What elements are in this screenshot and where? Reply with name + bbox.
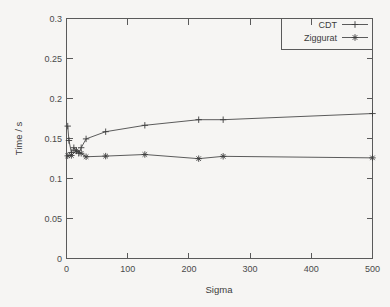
x-tick-label: 400 bbox=[304, 264, 319, 274]
y-tick-label: 0.15 bbox=[44, 134, 62, 144]
data-point-marker bbox=[142, 151, 148, 157]
data-point-marker bbox=[102, 129, 108, 135]
legend-marker-star-ziggurat bbox=[352, 34, 359, 41]
data-point-marker bbox=[369, 110, 375, 116]
data-point-marker bbox=[83, 136, 89, 142]
data-point-marker bbox=[78, 145, 84, 151]
y-tick-label: 0.05 bbox=[44, 214, 62, 224]
data-point-marker bbox=[65, 123, 71, 129]
data-point-marker bbox=[195, 155, 201, 161]
chart-legend: CDT Ziggurat bbox=[282, 19, 373, 50]
x-tick-label: 300 bbox=[243, 264, 258, 274]
x-tick-label: 500 bbox=[365, 264, 380, 274]
x-tickmarks bbox=[67, 19, 373, 259]
data-point-marker bbox=[83, 154, 89, 160]
data-point-marker bbox=[220, 153, 226, 159]
line-chart: 0.3 0.25 0.2 0.15 0.1 0.05 0 0 100 200 3… bbox=[0, 0, 390, 307]
data-point-marker bbox=[142, 122, 148, 128]
x-tick-label: 100 bbox=[120, 264, 135, 274]
data-point-marker bbox=[369, 155, 375, 161]
data-point-marker bbox=[78, 150, 84, 156]
legend-label-ziggurat: Ziggurat bbox=[304, 33, 338, 43]
y-tick-label: 0.2 bbox=[49, 94, 62, 104]
y-tick-label: 0 bbox=[57, 254, 62, 264]
x-tick-labels: 0 100 200 300 400 500 bbox=[64, 264, 380, 274]
y-tick-label: 0.25 bbox=[44, 54, 62, 64]
series-markers-ziggurat bbox=[65, 148, 376, 162]
x-tick-label: 200 bbox=[181, 264, 196, 274]
data-point-marker bbox=[68, 152, 74, 158]
plot-frame bbox=[67, 19, 373, 259]
legend-label-cdt: CDT bbox=[319, 20, 338, 30]
y-tick-label: 0.3 bbox=[49, 14, 62, 24]
x-axis-title: Sigma bbox=[206, 284, 234, 295]
x-tick-label: 0 bbox=[64, 264, 69, 274]
data-point-marker bbox=[195, 117, 201, 123]
y-axis-title: Time / s bbox=[13, 122, 24, 156]
series-line-ziggurat bbox=[68, 151, 373, 159]
y-tickmarks bbox=[67, 19, 373, 259]
data-point-marker bbox=[220, 117, 226, 123]
legend-marker-plus-cdt bbox=[352, 21, 359, 28]
data-point-marker bbox=[102, 153, 108, 159]
series-markers-cdt bbox=[65, 110, 376, 156]
chart-screenshot: 0.3 0.25 0.2 0.15 0.1 0.05 0 0 100 200 3… bbox=[0, 0, 390, 307]
y-tick-labels: 0.3 0.25 0.2 0.15 0.1 0.05 0 bbox=[44, 14, 62, 264]
y-tick-label: 0.1 bbox=[49, 174, 62, 184]
